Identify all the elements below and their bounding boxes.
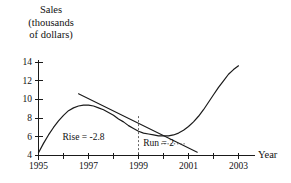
run-annotation-label: Run = 2	[143, 138, 174, 148]
y-tick-label-8: 8	[16, 113, 32, 123]
x-tick-label-1995: 1995	[22, 161, 56, 171]
y-tick-label-6: 6	[16, 132, 32, 142]
y-tick-label-10: 10	[16, 94, 32, 104]
plot-area	[0, 0, 291, 183]
rise-annotation-label: Rise = -2.8	[63, 132, 105, 142]
y-tick-label-12: 12	[16, 76, 32, 86]
y-tick-label-4: 4	[16, 150, 32, 160]
tangent-line	[79, 94, 198, 152]
x-tick-label-2003: 2003	[222, 161, 256, 171]
sales-chart-figure: Sales (thousands of dollars) Year	[0, 0, 291, 183]
x-tick-label-1997: 1997	[72, 161, 106, 171]
x-tick-label-2001: 2001	[172, 161, 206, 171]
x-tick-label-1999: 1999	[122, 161, 156, 171]
y-tick-label-14: 14	[16, 57, 32, 67]
